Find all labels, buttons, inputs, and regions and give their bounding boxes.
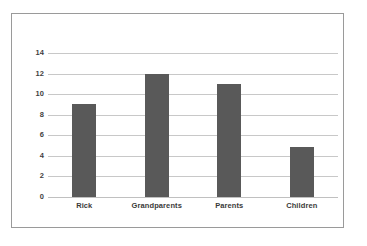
y-axis-tick-label: 2 (26, 173, 44, 181)
x-axis-category-label: Parents (215, 200, 243, 212)
chart-frame: 02468101214 RickGrandparentsParentsChild… (11, 13, 344, 228)
bar[interactable] (145, 74, 169, 197)
x-axis-category-label: Children (286, 200, 317, 212)
bar-slot (193, 53, 266, 197)
y-axis-tick-labels: 02468101214 (26, 53, 44, 197)
y-axis-tick-label: 10 (26, 90, 44, 98)
bar[interactable] (290, 147, 314, 197)
bar-chart: 02468101214 RickGrandparentsParentsChild… (12, 14, 345, 229)
bar-series (48, 53, 338, 197)
y-axis-tick-label: 6 (26, 132, 44, 140)
x-axis-category-labels: RickGrandparentsParentsChildren (48, 200, 338, 216)
y-axis-tick-label: 8 (26, 111, 44, 119)
x-axis-category-label: Grandparents (132, 200, 182, 212)
y-axis-tick-label: 12 (26, 70, 44, 78)
bar-slot (266, 53, 339, 197)
x-axis-category-label: Rick (76, 200, 92, 212)
y-axis-tick-label: 0 (26, 193, 44, 201)
bar[interactable] (217, 84, 241, 197)
y-axis-tick-label: 4 (26, 152, 44, 160)
bar-slot (121, 53, 194, 197)
gridline (48, 197, 338, 198)
bar-slot (48, 53, 121, 197)
bar[interactable] (72, 104, 96, 197)
y-axis-tick-label: 14 (26, 49, 44, 57)
